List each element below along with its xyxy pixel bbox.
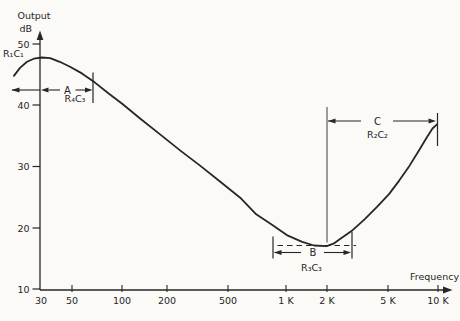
x-tick-label-2k: 2 K — [319, 295, 335, 306]
region-b-annotation: B R₃C₃ — [273, 232, 356, 273]
y-tick-label-10: 10 — [17, 284, 29, 295]
x-tick-label-50: 50 — [66, 295, 78, 306]
label-c: C — [374, 116, 381, 127]
x-axis — [40, 285, 453, 293]
response-curve — [14, 58, 437, 247]
y-axis — [33, 31, 44, 291]
frequency-response-chart: Output dB Frequency 50 40 30 20 10 30 50… — [0, 0, 460, 321]
x-tick-label-200: 200 — [158, 295, 176, 306]
left-arrowhead-icon — [274, 250, 282, 255]
label-b: B — [310, 247, 317, 258]
left-arrowhead-icon — [12, 88, 20, 93]
x-axis-title-frequency: Frequency — [410, 271, 459, 282]
y-axis-arrowhead — [37, 31, 44, 41]
y-tick-label-20: 20 — [17, 223, 29, 234]
y-tick-label-40: 40 — [17, 100, 29, 111]
y-tick-labels: 50 40 30 20 10 — [17, 39, 29, 295]
y-tick-label-30: 30 — [17, 161, 29, 172]
x-tick-label-100: 100 — [113, 295, 131, 306]
right-arrowhead-icon — [344, 250, 352, 255]
label-r2c2: R₂C₂ — [367, 129, 388, 140]
frequency-response-figure: Output dB Frequency 50 40 30 20 10 30 50… — [0, 0, 460, 321]
y-axis-title-db: dB — [20, 23, 33, 34]
region-c-annotation: C R₂C₂ — [327, 107, 438, 243]
y-axis-title-output: Output — [18, 10, 51, 21]
label-r1c1: R₁C₁ — [3, 48, 24, 59]
x-tick-label-1k: 1 K — [278, 295, 294, 306]
left-arrowhead-icon — [328, 119, 336, 124]
x-tick-label-10k: 10 K — [427, 295, 449, 306]
right-arrowhead-icon — [429, 119, 437, 124]
x-tick-label-5k: 5 K — [380, 295, 396, 306]
left-arrowhead-icon — [41, 88, 49, 93]
right-arrowhead-icon — [85, 88, 93, 93]
x-tick-labels: 30 50 100 200 500 1 K 2 K 5 K 10 K — [35, 295, 449, 306]
x-tick-label-30: 30 — [35, 295, 47, 306]
label-r3c3: R₃C₃ — [301, 262, 322, 273]
x-axis-arrowhead — [443, 287, 453, 294]
x-tick-label-500: 500 — [219, 295, 237, 306]
label-r4c3: R₄C₃ — [65, 93, 86, 104]
